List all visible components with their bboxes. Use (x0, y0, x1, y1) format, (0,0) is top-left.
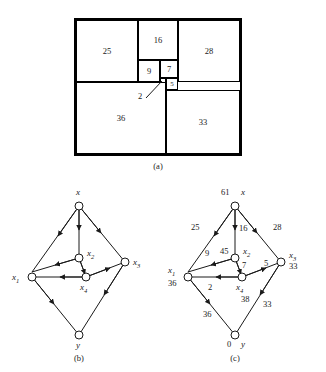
edge-x2-x1-flow: 9 (205, 248, 209, 258)
square-16: 16 (138, 20, 178, 60)
square-9-label: 9 (139, 67, 159, 76)
node-x2-label: x2 (242, 246, 251, 258)
node-y-potential: 0 (227, 339, 231, 349)
edge-x3-y-flow: 33 (263, 299, 272, 309)
node-x-label: x (75, 187, 80, 197)
panel-b-svg: x x1 x2 x3 x4 y (0, 178, 163, 372)
node-x1-label: x1 (167, 265, 175, 277)
node-y-label: y (240, 339, 245, 349)
node-x4-label: x4 (235, 282, 244, 294)
square-16-label: 16 (139, 36, 177, 45)
node-x3-label: x3 (132, 257, 141, 269)
node-x3-label: x3 (288, 250, 297, 262)
node-x1-label: x1 (11, 272, 19, 284)
node-x4 (238, 273, 246, 281)
figure-root: 25 16 28 9 7 5 (0, 0, 326, 372)
node-y-label: y (75, 340, 80, 350)
edge-x2-x4-flow: 7 (242, 260, 246, 270)
square-28-label: 28 (179, 47, 239, 56)
node-x2-label: x2 (86, 248, 95, 260)
node-x4-label: x4 (79, 282, 88, 294)
edge-x1-y-arrow (32, 277, 54, 304)
square-7: 7 (160, 60, 178, 78)
edge-x1-y-flow: 36 (203, 309, 212, 319)
square-36: 36 (76, 82, 166, 154)
edge-x3-y-arrow (104, 262, 125, 295)
node-x (231, 202, 239, 210)
square-25-label: 25 (77, 47, 137, 56)
square-5-label: 5 (167, 81, 177, 88)
node-x1 (28, 273, 36, 281)
node-x1-potential: 36 (168, 278, 177, 288)
square-5: 5 (166, 78, 178, 90)
square-25: 25 (76, 20, 138, 82)
edge-x-x3-flow: 28 (273, 222, 282, 232)
node-x2 (75, 254, 83, 262)
node-x4-potential: 38 (241, 294, 250, 304)
node-x2 (231, 254, 239, 262)
edge-x-x3-arrow (79, 206, 101, 233)
node-x1 (184, 273, 192, 281)
square-33-label: 33 (167, 118, 239, 127)
edge-x1-y-arrow (188, 277, 210, 304)
node-x-label: x (240, 187, 245, 197)
edge-x-x1-arrow (214, 206, 235, 236)
panel-a-caption: (a) (138, 162, 178, 171)
square-36-label: 36 (77, 114, 165, 123)
panel-b-digraph: x x1 x2 x3 x4 y (b) (0, 178, 163, 372)
panel-a-squared-rectangle: 25 16 28 9 7 5 (0, 0, 326, 178)
edge-x4-x3-flow: 5 (264, 258, 268, 268)
panel-c-caption: (c) (215, 354, 255, 363)
node-x-potential: 61 (221, 187, 230, 197)
node-x3 (277, 258, 285, 266)
square-28: 28 (178, 20, 240, 82)
edge-x-x1-flow: 25 (191, 222, 200, 232)
node-x3 (121, 258, 129, 266)
panel-c-digraph-with-flows: x x1 x2 x3 x4 y 61 36 45 33 38 0 25 16 2… (163, 178, 326, 372)
node-y (231, 331, 239, 339)
square-9: 9 (138, 60, 160, 82)
square-33: 33 (166, 90, 240, 154)
squared-rectangle-dissection: 25 16 28 9 7 5 (74, 18, 242, 156)
panel-b-caption: (b) (59, 354, 99, 363)
edge-x-x1-arrow (58, 206, 79, 236)
node-x2-potential: 45 (220, 246, 229, 256)
edge-x-x2-flow: 16 (239, 223, 248, 233)
square-2-label: 2 (138, 92, 142, 101)
square-7-label: 7 (161, 65, 177, 74)
node-x (75, 202, 83, 210)
edge-x4-x1-flow: 2 (208, 282, 212, 292)
node-x3-potential: 33 (289, 261, 298, 271)
node-y (75, 331, 83, 339)
node-x4 (82, 273, 90, 281)
panel-c-svg: x x1 x2 x3 x4 y 61 36 45 33 38 0 25 16 2… (163, 178, 326, 372)
